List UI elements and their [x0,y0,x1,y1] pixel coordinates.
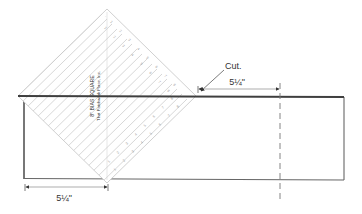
svg-text:·: · [105,15,106,19]
top-dimension: 5¼" [198,77,279,93]
bottom-dimension-label: 5¼" [56,193,72,203]
bottom-dimension: 5¼" [25,184,108,203]
fabric-bottom-edge [24,179,344,181]
top-dimension-label: 5¼" [229,77,245,87]
cut-label: Cut. [225,61,242,71]
bias-square-cutting-diagram: · 1 2 3 4 5 6 7 8 1 2 3 4 5 6 7 8 8 7 6 … [0,0,362,214]
fabric-top-edge [18,96,344,97]
